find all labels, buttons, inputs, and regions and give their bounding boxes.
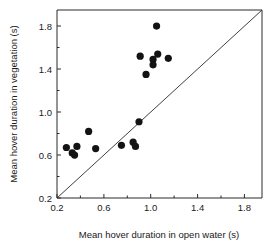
data-point (71, 151, 78, 158)
x-tick-labels: 0.2 0.6 1.0 1.4 1.8 (50, 202, 251, 213)
data-point (92, 145, 99, 152)
y-tick-label-1: 0.6 (39, 150, 52, 161)
x-tick-label-2: 1.0 (144, 202, 157, 213)
x-axis-title: Mean hover duration in open water (s) (79, 229, 240, 240)
chart-page: 0.2 0.6 1.0 1.4 1.8 0.2 0.6 1.0 1.4 1.8 … (0, 0, 276, 247)
data-point (142, 71, 149, 78)
x-tick-label-3: 1.4 (191, 202, 204, 213)
x-axis-ticks (57, 194, 244, 198)
data-point (63, 144, 70, 151)
data-point (154, 50, 161, 57)
y-axis-ticks (57, 26, 61, 198)
data-points-layer (63, 23, 172, 159)
scatter-plot: 0.2 0.6 1.0 1.4 1.8 0.2 0.6 1.0 1.4 1.8 … (0, 0, 276, 247)
data-point (149, 61, 156, 68)
y-tick-label-4: 1.8 (39, 21, 52, 32)
data-point (135, 118, 142, 125)
data-point (137, 53, 144, 60)
y-tick-label-3: 1.4 (39, 64, 52, 75)
data-point (73, 143, 80, 150)
data-point (118, 142, 125, 149)
x-tick-label-0: 0.2 (50, 202, 63, 213)
x-tick-label-1: 0.6 (97, 202, 110, 213)
y-tick-labels: 0.2 0.6 1.0 1.4 1.8 (39, 21, 52, 204)
data-point (165, 55, 172, 62)
y-axis-title: Mean hover duration in vegetation (s) (8, 25, 19, 182)
data-point (153, 23, 160, 30)
x-tick-label-4: 1.8 (238, 202, 251, 213)
y-tick-label-0: 0.2 (39, 193, 52, 204)
y-tick-label-2: 1.0 (39, 107, 52, 118)
data-point (85, 128, 92, 135)
data-point (132, 143, 139, 150)
identity-line (57, 10, 262, 198)
